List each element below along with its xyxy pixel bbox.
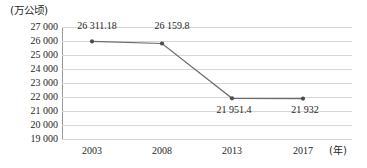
data-point-marker	[160, 41, 164, 45]
x-tick-label: 2008	[152, 146, 172, 156]
x-tick-label: 2003	[82, 146, 102, 156]
data-point-label: 26 311.18	[77, 21, 117, 31]
data-point-marker	[301, 97, 305, 101]
x-tick-label: 2017	[293, 146, 313, 156]
data-point-marker	[90, 39, 94, 43]
data-point-marker	[230, 96, 234, 100]
series-polyline	[92, 41, 303, 98]
line-chart: (万公顷) 27 000 26 000 25 000 24 000 23 000…	[0, 0, 367, 168]
data-point-label: 21 951.4	[217, 105, 252, 115]
data-point-label: 26 159.8	[155, 21, 190, 31]
x-tick-label: 2013	[222, 146, 242, 156]
data-point-label: 21 932	[291, 105, 319, 115]
x-axis-unit-label: (年)	[329, 146, 347, 156]
